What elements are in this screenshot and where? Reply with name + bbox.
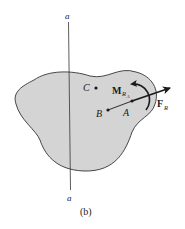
- figure-caption: (b): [80, 206, 92, 218]
- point-c-label: C: [83, 82, 90, 93]
- point-c-dot: [94, 86, 97, 89]
- force-label: F R: [157, 98, 168, 111]
- moment-symbol: M: [112, 85, 122, 96]
- point-a-dot: [130, 99, 133, 102]
- axis-top-label: a: [65, 11, 70, 21]
- force-symbol: F: [157, 98, 163, 109]
- point-a-label: A: [122, 107, 130, 118]
- point-b-dot: [106, 108, 109, 111]
- force-subscript: R: [163, 104, 168, 111]
- point-b-label: B: [96, 108, 102, 119]
- rigid-body-diagram: a a C B A M R A F R (b): [0, 0, 185, 229]
- axis-bottom-label: a: [67, 193, 72, 203]
- moment-subscript: R: [121, 90, 126, 97]
